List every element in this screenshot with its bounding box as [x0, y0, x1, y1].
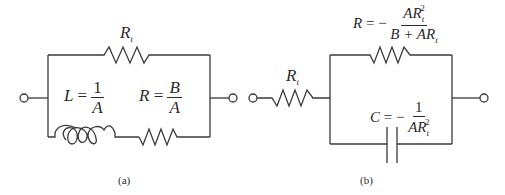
label-subscript: t: [130, 34, 133, 44]
den-a: A: [408, 119, 417, 135]
resistor-rt-b: [257, 90, 330, 106]
label-eq: = −: [366, 15, 387, 31]
label-eq: = −: [384, 109, 405, 125]
numerator: B: [167, 79, 181, 98]
caption-b: (b): [360, 174, 373, 186]
label-rt-b: Rt: [286, 67, 299, 87]
den-sub: t: [427, 128, 430, 138]
label-inductor-a: L = 1A: [64, 79, 104, 116]
fraction: 1A: [91, 79, 104, 116]
label-lhs: C: [370, 109, 380, 125]
output-terminal-b: [480, 94, 488, 102]
circuit-a: [20, 47, 237, 145]
fraction: 1 ARt2: [408, 100, 429, 138]
caption-a: (a): [118, 174, 130, 186]
fraction: BA: [167, 79, 181, 116]
inductor-a: [48, 125, 139, 144]
resistor-r-a: [139, 129, 210, 145]
label-lhs: R: [353, 15, 362, 31]
label-symbol: R: [286, 66, 296, 85]
label-capacitor-b: C = − 1 ARt2: [370, 100, 430, 138]
resistor-r-b: [330, 47, 452, 63]
resistor-rt-a: [48, 47, 210, 63]
label-rt-a: Rt: [120, 24, 133, 44]
numerator: 1: [91, 79, 104, 98]
denominator: A: [169, 98, 179, 116]
den-sub: t: [435, 35, 438, 45]
numerator: 1: [413, 100, 425, 117]
input-terminal-b: [249, 94, 257, 102]
numerator: ARt2: [401, 4, 426, 26]
label-lhs: L: [64, 86, 73, 105]
circuit-b: [249, 47, 488, 163]
label-lhs: R: [139, 86, 149, 105]
den-b: B + A: [390, 26, 426, 42]
label-subscript: t: [296, 77, 299, 87]
label-resistor-a: R = BA: [139, 79, 182, 116]
output-terminal-a: [229, 94, 237, 102]
input-terminal-a: [20, 94, 28, 102]
num-sub: t: [422, 14, 425, 24]
label-resistor-b: R = − ARt2 B + ARt: [353, 4, 438, 45]
label-eq: =: [154, 86, 164, 105]
denominator: B + ARt: [390, 26, 437, 45]
denominator: ARt2: [408, 117, 429, 138]
label-eq: =: [77, 86, 87, 105]
fraction: ARt2 B + ARt: [390, 4, 437, 45]
label-symbol: R: [120, 23, 130, 42]
denominator: A: [92, 98, 102, 116]
den-r: R: [426, 26, 435, 42]
den-sup: 2: [425, 117, 430, 127]
num-sup: 2: [420, 3, 425, 13]
num-a: A: [403, 5, 412, 21]
